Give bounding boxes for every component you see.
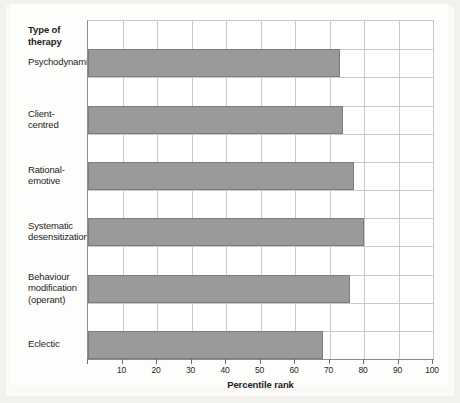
x-tick-80 xyxy=(363,359,364,364)
plot-area xyxy=(87,20,434,360)
x-tick-20 xyxy=(156,359,157,364)
gridline-y-2 xyxy=(88,77,433,78)
x-tick-label-80: 80 xyxy=(348,365,378,375)
bar-eclectic[interactable] xyxy=(88,331,323,359)
x-tick-label-100: 100 xyxy=(417,365,447,375)
category-label-column: Type oftherapy PsychodynamicClient-centr… xyxy=(14,20,90,358)
x-tick-90 xyxy=(398,359,399,364)
bar-behaviour-modification-operant[interactable] xyxy=(88,275,350,303)
bar-psychodynamic[interactable] xyxy=(88,49,340,77)
x-tick-label-90: 90 xyxy=(383,365,413,375)
x-axis: 102030405060708090100 xyxy=(87,359,434,381)
bar-rational-emotive[interactable] xyxy=(88,162,354,190)
bar-systematic-desensitization[interactable] xyxy=(88,218,364,246)
x-tick-label-30: 30 xyxy=(176,365,206,375)
gridline-y-10 xyxy=(88,303,433,304)
gridline-y-8 xyxy=(88,246,433,247)
gridline-y-6 xyxy=(88,190,433,191)
x-tick-label-10: 10 xyxy=(107,365,137,375)
gridline-y-4 xyxy=(88,134,433,135)
figure-container: Type oftherapy PsychodynamicClient-centr… xyxy=(0,0,460,403)
x-tick-label-40: 40 xyxy=(210,365,240,375)
x-tick-0 xyxy=(87,359,88,364)
x-tick-40 xyxy=(225,359,226,364)
x-axis-title: Percentile rank xyxy=(87,379,434,390)
x-tick-50 xyxy=(260,359,261,364)
x-tick-label-20: 20 xyxy=(141,365,171,375)
x-tick-100 xyxy=(432,359,433,364)
bar-client-centred[interactable] xyxy=(88,106,343,134)
x-tick-70 xyxy=(329,359,330,364)
x-tick-60 xyxy=(294,359,295,364)
x-tick-label-60: 60 xyxy=(279,365,309,375)
x-tick-label-70: 70 xyxy=(314,365,344,375)
x-tick-30 xyxy=(191,359,192,364)
x-tick-10 xyxy=(122,359,123,364)
x-tick-label-50: 50 xyxy=(245,365,275,375)
